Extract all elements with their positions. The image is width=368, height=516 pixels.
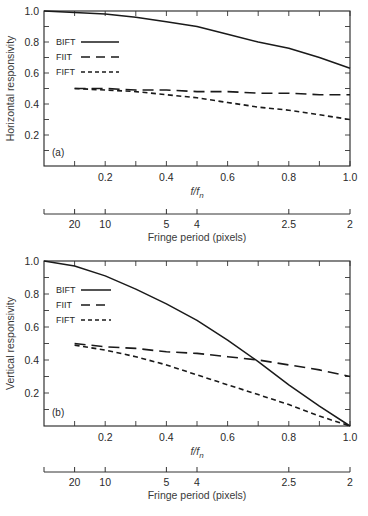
- fringe-tick-label: 2: [347, 476, 353, 488]
- y-tick-label: 0.8: [24, 36, 39, 48]
- y-tick-label: 0.8: [24, 288, 39, 300]
- chart-a: 0.20.40.60.81.01.00.80.60.40.2Horizontal…: [4, 5, 357, 243]
- plot-frame: [44, 261, 350, 426]
- y-axis-title: Vertical responsivity: [4, 296, 16, 390]
- y-tick-label: 0.4: [24, 354, 39, 366]
- fringe-tick-label: 20: [69, 476, 81, 488]
- series-bift-line: [44, 261, 350, 426]
- legend-label: BIFT: [56, 37, 76, 47]
- fringe-tick-label: 2.5: [281, 218, 296, 230]
- x-tick-label: 0.2: [98, 171, 113, 183]
- fringe-period-axis: 2010542.52Fringe period (pixels): [44, 467, 353, 501]
- plot-frame: [44, 11, 350, 166]
- fringe-tick-label: 5: [163, 218, 169, 230]
- fringe-tick-label: 4: [194, 476, 200, 488]
- fringe-period-axis: 2010542.52Fringe period (pixels): [44, 209, 353, 243]
- series-fiit-line: [75, 89, 350, 95]
- x-axis-title: f/fn: [190, 185, 204, 200]
- fringe-tick-label: 2: [347, 218, 353, 230]
- fringe-tick-label: 10: [99, 218, 111, 230]
- y-tick-label: 0.6: [24, 67, 39, 79]
- fringe-axis-title: Fringe period (pixels): [148, 231, 247, 243]
- y-tick-label: 0.2: [24, 387, 39, 399]
- x-tick-label: 0.4: [159, 431, 174, 443]
- fringe-tick-label: 2.5: [281, 476, 296, 488]
- fringe-tick-label: 10: [99, 476, 111, 488]
- y-tick-label: 0.4: [24, 98, 39, 110]
- panel-label: (a): [52, 147, 64, 158]
- fringe-tick-label: 20: [69, 218, 81, 230]
- x-tick-label: 0.8: [281, 171, 296, 183]
- series-bift-line: [44, 11, 350, 68]
- x-tick-label: 0.8: [281, 431, 296, 443]
- legend-label: FIIT: [56, 300, 72, 310]
- y-tick-label: 0.2: [24, 129, 39, 141]
- legend-label: FIFT: [56, 67, 75, 77]
- y-tick-label: 0.6: [24, 321, 39, 333]
- legend-label: BIFT: [56, 285, 76, 295]
- responsivity-chart: 0.20.40.60.81.01.00.80.60.40.2Horizontal…: [0, 0, 368, 516]
- series-fiit-line: [75, 344, 350, 377]
- x-tick-label: 0.6: [220, 171, 235, 183]
- legend-label: FIFT: [56, 315, 75, 325]
- fringe-tick-label: 5: [163, 476, 169, 488]
- x-tick-label: 0.4: [159, 171, 174, 183]
- series-fift-line: [75, 89, 350, 120]
- y-tick-label: 1.0: [24, 5, 39, 17]
- x-tick-label: 0.2: [98, 431, 113, 443]
- x-axis-title: f/fn: [190, 445, 204, 460]
- x-tick-label: 1.0: [343, 171, 358, 183]
- chart-b: 0.20.40.60.81.01.00.80.60.40.2Vertical r…: [4, 255, 357, 501]
- fringe-axis-title: Fringe period (pixels): [148, 489, 247, 501]
- y-tick-label: 1.0: [24, 255, 39, 267]
- x-tick-label: 0.6: [220, 431, 235, 443]
- x-tick-label: 1.0: [343, 431, 358, 443]
- legend-label: FIIT: [56, 52, 72, 62]
- y-axis-title: Horizontal responsivity: [4, 35, 16, 141]
- series-fift-line: [75, 345, 350, 426]
- fringe-tick-label: 4: [194, 218, 200, 230]
- panel-label: (b): [52, 407, 64, 418]
